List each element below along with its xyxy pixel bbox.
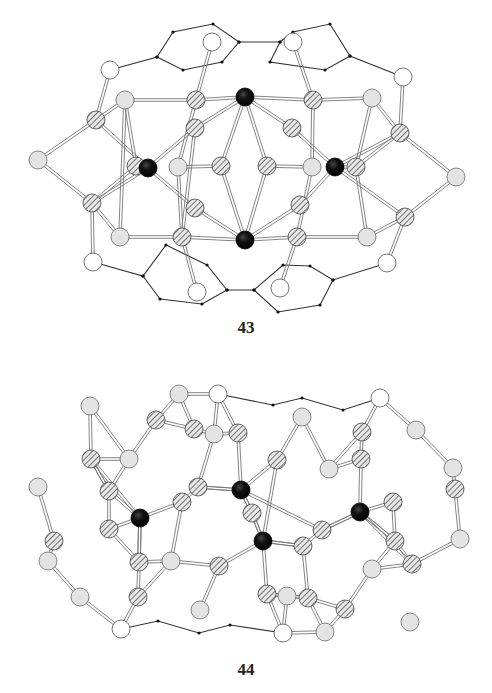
- black-metal-atom: [326, 158, 344, 176]
- hatched-atom: [294, 537, 312, 555]
- hatched-atom: [313, 521, 331, 539]
- hatched-atom: [304, 91, 322, 109]
- hatched-atom: [446, 480, 464, 498]
- hatched-atom: [288, 228, 306, 246]
- carbon-dot: [328, 22, 331, 25]
- hatched-atom: [384, 493, 402, 511]
- gray-atom: [39, 552, 57, 570]
- gray-atom: [205, 425, 223, 443]
- hatched-atom: [386, 532, 404, 550]
- hatched-atom: [336, 600, 354, 618]
- ligand-chain: [121, 621, 283, 633]
- white-atom: [188, 283, 206, 301]
- hatched-atom: [391, 124, 409, 142]
- hatched-atom: [185, 420, 203, 438]
- carbon-dot: [220, 60, 223, 63]
- white-atom: [378, 254, 396, 272]
- carbon-dot: [158, 297, 161, 300]
- gray-atom: [451, 530, 469, 548]
- hatched-atom: [299, 589, 317, 607]
- carbon-dot: [276, 310, 279, 313]
- carbon-dot: [205, 263, 208, 266]
- gray-atom: [358, 228, 376, 246]
- hatched-atom: [83, 194, 101, 212]
- carbon-dot: [268, 60, 271, 63]
- carbon-dot: [278, 40, 281, 43]
- gray-atom: [120, 450, 138, 468]
- hatched-atom: [258, 585, 276, 603]
- ligand-chain: [157, 42, 239, 70]
- carbon-dot: [252, 288, 255, 291]
- black-metal-atom: [139, 159, 157, 177]
- white-atom: [112, 620, 130, 638]
- ligand-chain: [270, 42, 350, 70]
- gray-atom: [111, 228, 129, 246]
- black-metal-atom: [232, 481, 250, 499]
- hatched-atom: [283, 119, 301, 137]
- hatched-atom: [212, 157, 230, 175]
- gray-atom: [29, 151, 47, 169]
- hatched-atom: [186, 119, 204, 137]
- hatched-atom: [210, 557, 228, 575]
- white-atom: [371, 389, 389, 407]
- molecular-structures-figure: [0, 0, 492, 693]
- ligand-chain: [93, 245, 387, 290]
- ligand-chain: [110, 24, 403, 77]
- carbon-dot: [271, 403, 274, 406]
- hatched-atom: [100, 520, 118, 538]
- hatched-atom: [187, 91, 205, 109]
- hatched-atom: [189, 478, 207, 496]
- carbon-dot: [348, 54, 351, 57]
- hatched-atom: [82, 450, 100, 468]
- gray-atom: [401, 613, 419, 631]
- white-atom: [84, 253, 102, 271]
- structure-label-44: 44: [206, 660, 286, 680]
- carbon-dot: [323, 68, 326, 71]
- hatched-atom: [353, 423, 371, 441]
- structure-44-atoms: [29, 385, 469, 642]
- carbon-dot: [281, 263, 284, 266]
- gray-atom: [71, 588, 89, 606]
- black-metal-atom: [236, 88, 254, 106]
- hatched-atom: [291, 196, 309, 214]
- gray-atom: [278, 587, 296, 605]
- hatched-atom: [173, 228, 191, 246]
- carbon-dot: [300, 396, 303, 399]
- gray-atom: [81, 397, 99, 415]
- hatched-atom: [147, 411, 165, 429]
- ligand-chain: [218, 394, 380, 410]
- hatched-atom: [45, 532, 63, 550]
- carbon-dot: [308, 264, 311, 267]
- structure-43-atoms: [29, 33, 465, 301]
- gray-atom: [363, 89, 381, 107]
- carbon-dot: [225, 288, 228, 291]
- gray-atom: [363, 560, 381, 578]
- hatched-atom: [243, 504, 261, 522]
- gray-atom: [447, 168, 465, 186]
- white-atom: [209, 385, 227, 403]
- gray-atom: [316, 623, 334, 641]
- hatched-atom: [229, 424, 247, 442]
- hatched-atom: [396, 208, 414, 226]
- hatched-atom: [100, 482, 118, 500]
- white-atom: [274, 624, 292, 642]
- structure-label-43: 43: [206, 318, 286, 338]
- carbon-dot: [200, 302, 203, 305]
- black-metal-atom: [254, 532, 272, 550]
- hatched-atom: [268, 451, 286, 469]
- gray-atom: [169, 158, 187, 176]
- carbon-dot: [156, 619, 159, 622]
- gray-atom: [320, 460, 338, 478]
- gray-atom: [29, 478, 47, 496]
- hatched-atom: [129, 588, 147, 606]
- gray-atom: [444, 459, 462, 477]
- gray-atom: [162, 552, 180, 570]
- ligand-chain: [254, 280, 333, 312]
- carbon-dot: [171, 30, 174, 33]
- carbon-dot: [237, 40, 240, 43]
- gray-atom: [303, 158, 321, 176]
- hatched-atom: [173, 493, 191, 511]
- hatched-atom: [352, 450, 370, 468]
- black-metal-atom: [131, 509, 149, 527]
- black-metal-atom: [236, 231, 254, 249]
